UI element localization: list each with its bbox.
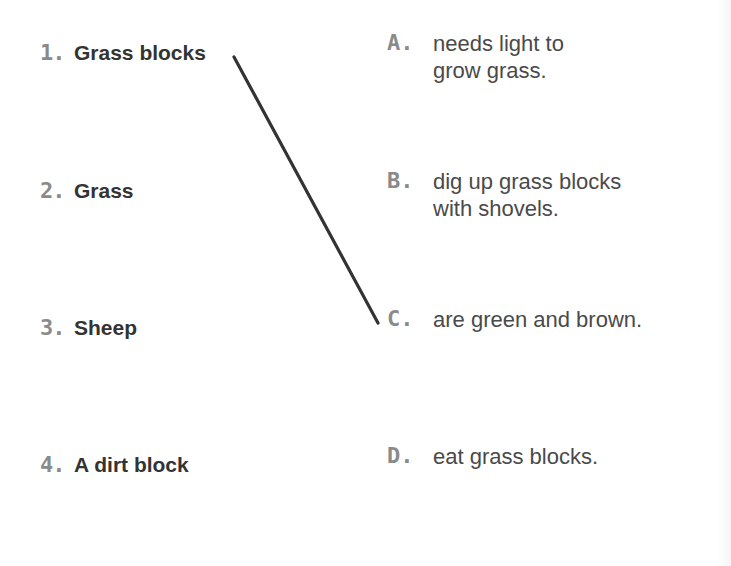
item-label: Grass bbox=[74, 179, 134, 203]
item-number: 1. bbox=[40, 40, 74, 65]
item-number: 3. bbox=[40, 315, 74, 340]
item-label: Grass blocks bbox=[74, 41, 206, 65]
item-label: Sheep bbox=[74, 316, 137, 340]
item-letter: B. bbox=[387, 168, 433, 194]
item-text: dig up grass blocks with shovels. bbox=[433, 168, 723, 222]
item-text: eat grass blocks. bbox=[433, 443, 723, 470]
right-item-d[interactable]: D. eat grass blocks. bbox=[387, 443, 723, 470]
item-text: are green and brown. bbox=[433, 306, 723, 333]
item-letter: A. bbox=[387, 30, 433, 56]
left-item-3[interactable]: 3. Sheep bbox=[40, 315, 137, 340]
right-item-c[interactable]: C. are green and brown. bbox=[387, 306, 723, 333]
left-item-4[interactable]: 4. A dirt block bbox=[40, 452, 189, 477]
item-letter: D. bbox=[387, 443, 433, 469]
item-number: 4. bbox=[40, 452, 74, 477]
item-text: needs light to grow grass. bbox=[433, 30, 723, 84]
left-item-2[interactable]: 2. Grass bbox=[40, 178, 134, 203]
item-label: A dirt block bbox=[74, 453, 189, 477]
item-letter: C. bbox=[387, 306, 433, 332]
match-lines bbox=[0, 0, 731, 566]
right-item-b[interactable]: B. dig up grass blocks with shovels. bbox=[387, 168, 723, 222]
item-number: 2. bbox=[40, 178, 74, 203]
page-edge-shadow bbox=[717, 0, 731, 566]
right-item-a[interactable]: A. needs light to grow grass. bbox=[387, 30, 723, 84]
left-item-1[interactable]: 1. Grass blocks bbox=[40, 40, 206, 65]
match-line-1-to-c[interactable] bbox=[234, 57, 378, 323]
